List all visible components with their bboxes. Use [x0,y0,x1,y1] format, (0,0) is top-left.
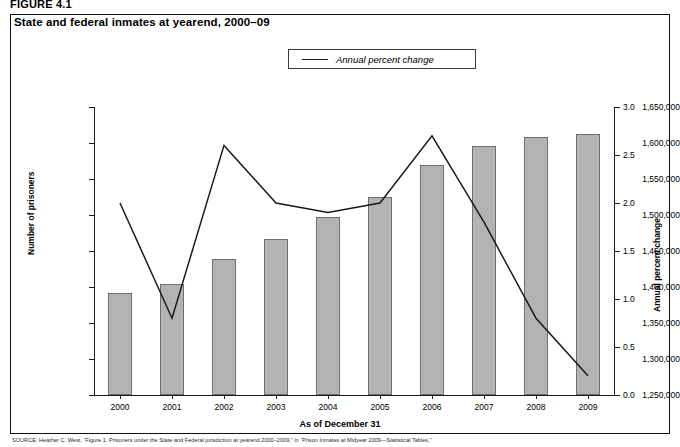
x-tick-label-2003: 2003 [267,402,286,412]
y-tick-left [89,143,94,144]
x-tick-label-2004: 2004 [319,402,338,412]
y-tick-label-left: 1,300,000 [595,354,680,364]
x-tick-label-2009: 2009 [579,402,598,412]
y-tick-label-right: 2.5 [623,150,635,160]
x-axis-title: As of December 31 [0,419,680,429]
y-tick-label-left: 1,350,000 [595,318,680,328]
y-tick-right [615,155,620,156]
y-axis-left-line [94,107,95,395]
x-tick [588,395,589,399]
bar-2008 [524,137,548,395]
bar-2004 [316,217,340,395]
y-tick-label-right: 1.0 [623,294,635,304]
x-tick [484,395,485,399]
y-tick-left [89,395,94,396]
x-tick [536,395,537,399]
y-tick-right [615,203,620,204]
y-tick-left [89,179,94,180]
x-tick-label-2000: 2000 [111,402,130,412]
bar-2002 [212,259,236,395]
y-tick-label-right: 3.0 [623,102,635,112]
y-tick-label-right: 2.0 [623,198,635,208]
y-tick-left [89,215,94,216]
bar-2003 [264,239,288,395]
y-tick-left [89,287,94,288]
bar-2009 [576,134,600,395]
x-tick-label-2007: 2007 [475,402,494,412]
y-tick-label-left: 1,600,000 [595,138,680,148]
y-tick-label-right: 1.5 [623,246,635,256]
y-axis-title-left: Number of prisoners [26,171,36,255]
x-tick-label-2001: 2001 [163,402,182,412]
y-tick-left [89,323,94,324]
y-tick-label-left: 1,550,000 [595,174,680,184]
x-tick [120,395,121,399]
y-tick-right [615,107,620,108]
bar-2006 [420,165,444,395]
y-tick-label-left: 1,650,000 [595,102,680,112]
x-tick [172,395,173,399]
bar-2000 [108,293,132,395]
y-tick-left [89,251,94,252]
x-tick [432,395,433,399]
source-note: SOURCE: Heather C. West, “Figure 1. Pris… [12,437,672,444]
x-tick-label-2006: 2006 [423,402,442,412]
y-tick-right [615,251,620,252]
y-tick-label-left: 1,250,000 [595,390,680,400]
x-tick [380,395,381,399]
x-tick [224,395,225,399]
x-tick-label-2005: 2005 [371,402,390,412]
y-tick-label-left: 1,400,000 [595,282,680,292]
y-tick-label-right: 0.5 [623,342,635,352]
y-tick-right [615,395,620,396]
x-tick-label-2002: 2002 [215,402,234,412]
chart-plot-area: 1,250,0001,300,0001,350,0001,400,0001,45… [0,0,680,447]
source-text: Heather C. West, “Figure 1. Prisoners un… [39,437,432,443]
bar-2007 [472,146,496,395]
y-tick-left [89,107,94,108]
x-tick [276,395,277,399]
y-tick-left [89,359,94,360]
bar-2001 [160,284,184,395]
y-tick-label-right: 0.0 [623,390,635,400]
source-tag: SOURCE: [12,437,38,443]
y-tick-right [615,299,620,300]
x-tick [328,395,329,399]
bar-2005 [368,197,392,395]
y-tick-label-left: 1,450,000 [595,246,680,256]
y-tick-right [615,347,620,348]
y-tick-label-left: 1,500,000 [595,210,680,220]
y-axis-title-right: Annual percent change [652,218,662,312]
x-tick-label-2008: 2008 [527,402,546,412]
